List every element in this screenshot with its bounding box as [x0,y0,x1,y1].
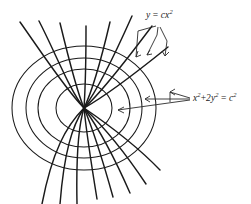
parabola-leader-left [136,26,156,57]
orthogonal-trajectories-figure: y = cx2 x2+2y2 = c2 [0,0,251,204]
label-parabola-equation: y = cx2 [146,9,173,21]
parabola-family [20,16,168,204]
label-ellipse-equation: x2+2y2 = c2 [193,92,237,104]
parabola-leader-right [160,27,167,56]
ellipse-arrowhead-upper [170,89,175,95]
ellipse-leader-lower [118,100,190,110]
parabola-5 [84,22,113,197]
